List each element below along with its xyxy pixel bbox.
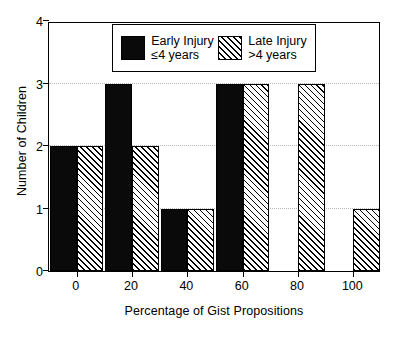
y-tick-1 [43, 208, 49, 209]
legend-early-sub: ≤4 years [151, 48, 214, 62]
x-tick-label-0: 0 [54, 279, 98, 293]
bar-late-injury-80 [298, 84, 325, 272]
bar-early-injury-60 [216, 84, 243, 272]
x-tick-60 [243, 271, 244, 277]
x-tick-label-100: 100 [330, 279, 374, 293]
legend-early-name: Early Injury [151, 34, 214, 48]
legend-item-late-injury-label: Late Injury >4 years [248, 34, 306, 62]
y-tick-2 [43, 145, 49, 146]
bar-chart: Number of Children Percentage of Gist Pr… [0, 0, 400, 337]
y-tick-3 [43, 83, 49, 84]
legend-late-sub: >4 years [248, 48, 306, 62]
y-tick-label-1: 1 [13, 203, 43, 217]
bar-early-injury-0 [50, 146, 77, 271]
legend-late-name: Late Injury [248, 34, 306, 48]
bar-late-injury-100 [353, 209, 380, 272]
chart-legend: Early Injury ≤4 years Late Injury >4 yea… [112, 24, 316, 72]
diagonal-hatch-swatch-icon [218, 36, 242, 60]
x-tick-0 [77, 271, 78, 277]
y-tick-4 [43, 20, 49, 21]
x-tick-20 [132, 271, 133, 277]
y-tick-label-2: 2 [13, 140, 43, 154]
x-tick-label-20: 20 [109, 279, 153, 293]
gridline-y-3 [49, 83, 379, 84]
x-tick-40 [187, 271, 188, 277]
y-tick-label-4: 4 [13, 15, 43, 29]
legend-item-early-injury: Early Injury ≤4 years [121, 34, 214, 62]
solid-black-swatch-icon [121, 36, 145, 60]
bar-late-injury-0 [77, 146, 104, 271]
x-axis-title: Percentage of Gist Propositions [48, 304, 380, 318]
x-tick-label-60: 60 [220, 279, 264, 293]
legend-item-early-injury-label: Early Injury ≤4 years [151, 34, 214, 62]
x-tick-label-80: 80 [275, 279, 319, 293]
bar-late-injury-20 [132, 146, 159, 271]
y-tick-0 [43, 270, 49, 271]
x-tick-label-40: 40 [164, 279, 208, 293]
bar-late-injury-60 [243, 84, 270, 272]
bar-early-injury-20 [105, 84, 132, 272]
y-tick-label-3: 3 [13, 78, 43, 92]
y-tick-label-0: 0 [13, 265, 43, 279]
bar-early-injury-40 [161, 209, 188, 272]
x-tick-80 [298, 271, 299, 277]
bar-late-injury-40 [187, 209, 214, 272]
x-tick-100 [353, 271, 354, 277]
legend-item-late-injury: Late Injury >4 years [218, 34, 306, 62]
